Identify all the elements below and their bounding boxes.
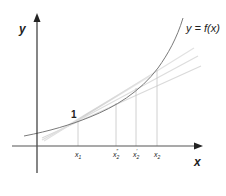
tick-label-x2: x2 xyxy=(153,151,161,160)
curve-label: y = f(x) xyxy=(185,22,220,34)
x-tick-labels: x1 x2″ x2′ x2 xyxy=(74,148,161,160)
tick-label-x2-double-prime: x2″ xyxy=(112,148,120,160)
x-axis-label: x xyxy=(193,155,202,169)
tangent-line xyxy=(44,76,150,140)
drop-lines xyxy=(78,70,157,146)
axes xyxy=(12,13,203,173)
secant-diagram: y x y = f(x) 1 x1 x2″ x2′ x2 xyxy=(0,0,226,196)
x-axis-arrow-icon xyxy=(194,143,203,150)
tick-label-x1: x1 xyxy=(74,151,82,160)
tick-label-x2-prime: x2′ xyxy=(132,148,140,160)
y-axis-label: y xyxy=(18,22,27,36)
point-label: 1 xyxy=(71,109,77,120)
y-axis-arrow-icon xyxy=(34,13,41,22)
secant-lines xyxy=(42,48,201,141)
